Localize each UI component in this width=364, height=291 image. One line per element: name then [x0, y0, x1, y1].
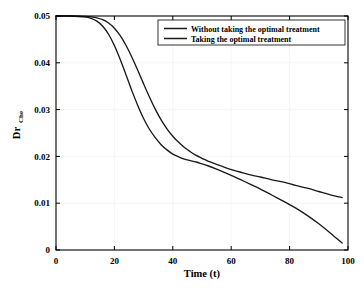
- y-tick-label: 0.02: [34, 152, 50, 162]
- y-axis-title-group: Dr Che: [11, 111, 25, 139]
- x-tick-label: 80: [285, 256, 295, 266]
- x-tick-label: 40: [168, 256, 178, 266]
- y-tick-label: 0: [46, 245, 51, 255]
- y-tick-label: 0.03: [34, 105, 50, 115]
- y-tick-labels: 00.010.020.030.040.05: [34, 11, 50, 255]
- y-axis-title: Dr: [11, 127, 22, 140]
- x-tick-labels: 020406080100: [54, 256, 356, 266]
- x-tick-label: 60: [227, 256, 237, 266]
- x-axis-title: Time (t): [184, 268, 221, 280]
- series-line-1: [56, 16, 342, 243]
- x-tick-label: 100: [341, 256, 355, 266]
- chart-figure: 020406080100 00.010.020.030.040.05 Time …: [0, 0, 364, 291]
- chart-legend[interactable]: Without taking the optimal treatment Tak…: [158, 20, 345, 45]
- tick-marks: [56, 16, 348, 250]
- y-tick-label: 0.05: [34, 11, 50, 21]
- plot-frame: [56, 16, 348, 250]
- x-tick-label: 0: [54, 256, 59, 266]
- grid-lines: [56, 16, 348, 250]
- y-tick-label: 0.01: [34, 198, 50, 208]
- legend-label-series-1: Taking the optimal treatment: [191, 35, 292, 44]
- legend-label-series-0: Without taking the optimal treatment: [191, 25, 320, 34]
- series-lines: [56, 16, 342, 243]
- chart-canvas: 020406080100 00.010.020.030.040.05 Time …: [0, 0, 364, 291]
- y-tick-label: 0.04: [34, 58, 50, 68]
- x-tick-label: 20: [110, 256, 120, 266]
- y-axis-title-subscript: Che: [17, 111, 25, 123]
